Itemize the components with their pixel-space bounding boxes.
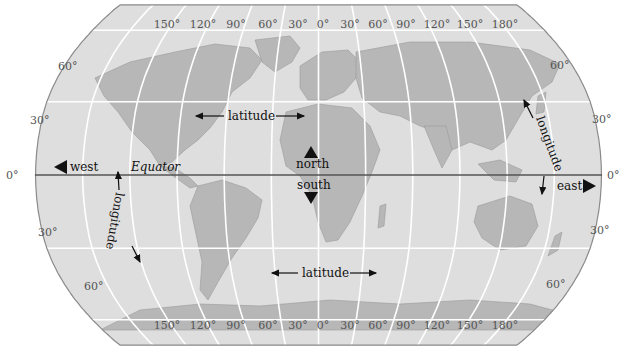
equator-label: Equator [130, 160, 181, 174]
lon-label-top-9: 120° [424, 18, 451, 31]
lon-label-top-11: 180° [492, 18, 519, 31]
lat-label-left-0: 0° [6, 169, 19, 182]
east-label: east [557, 179, 582, 193]
lat-label-left-30s: 30° [38, 226, 58, 239]
lat-label-right-30n: 30° [592, 113, 612, 126]
lat-label-left-60n: 60° [58, 60, 78, 73]
lat-label-left-60s: 60° [84, 280, 104, 293]
lon-label-top-2: 90° [226, 18, 246, 31]
lat-label-right-30s: 30° [590, 224, 610, 237]
lon-label-bottom-6: 30° [340, 319, 360, 332]
lon-label-bottom-11: 180° [492, 319, 519, 332]
lon-label-bottom-5: 0° [317, 319, 330, 332]
lon-label-bottom-9: 120° [424, 319, 451, 332]
lon-label-top-6: 30° [340, 18, 360, 31]
lon-label-bottom-4: 30° [288, 319, 308, 332]
lon-label-top-1: 120° [190, 18, 217, 31]
lon-label-bottom-3: 60° [258, 319, 278, 332]
lat-label-right-0: 0° [607, 169, 620, 182]
latitude-top-label: latitude [228, 109, 275, 123]
lon-label-bottom-8: 90° [396, 319, 416, 332]
lon-label-top-7: 60° [368, 18, 388, 31]
lon-label-top-0: 150° [154, 18, 181, 31]
lon-label-bottom-2: 90° [226, 319, 246, 332]
south-label: south [297, 178, 331, 192]
lon-label-top-10: 150° [457, 18, 484, 31]
lon-label-top-5: 0° [317, 18, 330, 31]
lon-label-top-4: 30° [288, 18, 308, 31]
lon-label-top-3: 60° [258, 18, 278, 31]
lon-label-top-8: 90° [396, 18, 416, 31]
lon-label-bottom-1: 120° [190, 319, 217, 332]
lon-label-bottom-0: 150° [154, 319, 181, 332]
world-map: 150°120°90°60°30°0°30°60°90°120°150°180°… [0, 0, 637, 352]
lon-label-bottom-7: 60° [368, 319, 388, 332]
west-label: west [70, 160, 99, 174]
latitude-bottom-label: latitude [302, 266, 349, 280]
lat-label-right-60s: 60° [546, 278, 566, 291]
lat-label-left-30n: 30° [30, 114, 50, 127]
north-label: north [296, 157, 330, 171]
lat-label-right-60n: 60° [550, 59, 570, 72]
lon-label-bottom-10: 150° [457, 319, 484, 332]
